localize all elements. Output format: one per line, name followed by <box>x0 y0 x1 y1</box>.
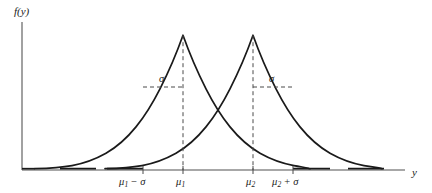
plus-operator: + <box>281 176 293 187</box>
sigma-label-right: σ <box>269 74 274 85</box>
normal-distribution-figure: f(y) y σ σ μ1 − σ μ1 μ2 μ2 + σ <box>0 0 432 193</box>
tick-label-mu1: μ1 <box>176 177 185 188</box>
normal-curve-mu2 <box>105 35 382 169</box>
mu-subscript: 1 <box>181 180 185 189</box>
sigma-glyph: σ <box>140 176 145 187</box>
tick-label-mu2-plus-sigma: μ2 + σ <box>272 177 299 188</box>
tick-label-mu2: μ2 <box>246 177 255 188</box>
normal-curve-mu1 <box>35 35 310 169</box>
x-axis-label: y <box>412 167 417 178</box>
figure-canvas <box>0 0 432 193</box>
minus-operator: − <box>128 176 140 187</box>
sigma-label-left: σ <box>159 74 164 85</box>
mu-subscript: 2 <box>251 180 255 189</box>
tick-label-mu1-minus-sigma: μ1 − σ <box>119 177 146 188</box>
sigma-glyph: σ <box>293 176 298 187</box>
y-axis-label: f(y) <box>14 6 29 17</box>
